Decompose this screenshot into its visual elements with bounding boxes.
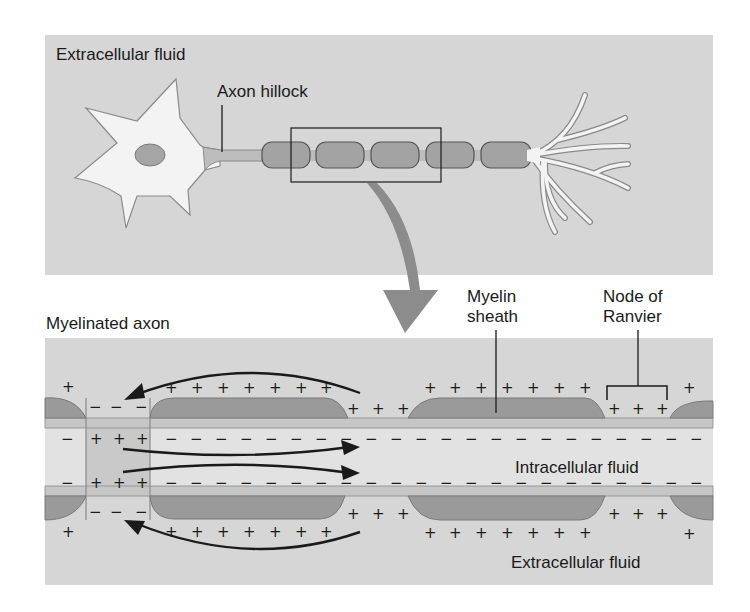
plus-charge: + xyxy=(608,507,621,522)
myelin-bottom xyxy=(408,496,605,520)
minus-charge: − xyxy=(315,432,328,447)
minus-charge: − xyxy=(515,476,528,491)
plus-charge: + xyxy=(295,525,308,540)
minus-charge: − xyxy=(365,476,378,491)
minus-charge: − xyxy=(540,432,553,447)
minus-charge: − xyxy=(440,476,453,491)
plus-charge: + xyxy=(656,507,669,522)
minus-charge: − xyxy=(135,400,148,415)
minus-charge: − xyxy=(315,476,328,491)
plus-charge: + xyxy=(347,402,360,417)
plus-charge: + xyxy=(165,525,178,540)
minus-charge: − xyxy=(415,432,428,447)
minus-charge: − xyxy=(565,432,578,447)
node-of-ranvier-label-2: Ranvier xyxy=(603,307,662,326)
minus-charge: − xyxy=(365,432,378,447)
plus-charge: + xyxy=(553,526,566,541)
plus-charge: + xyxy=(320,381,333,396)
plus-charge: + xyxy=(501,526,514,541)
minus-charge: − xyxy=(590,476,603,491)
plus-charge: + xyxy=(165,381,178,396)
minus-charge: − xyxy=(590,432,603,447)
plus-charge: + xyxy=(656,402,669,417)
nucleus xyxy=(135,144,165,166)
myelin-segment xyxy=(481,142,531,168)
minus-charge: − xyxy=(615,432,628,447)
plus-charge: + xyxy=(683,527,696,542)
extracellular-fluid-label-top: Extracellular fluid xyxy=(56,45,185,64)
plus-charge: + xyxy=(136,432,149,447)
plus-charge: + xyxy=(527,526,540,541)
myelin-top xyxy=(150,398,348,418)
plus-charge: + xyxy=(90,432,103,447)
plus-charge: + xyxy=(579,381,592,396)
minus-charge: − xyxy=(89,505,102,520)
extracellular-fluid-label-bottom: Extracellular fluid xyxy=(511,553,640,572)
minus-charge: − xyxy=(340,432,353,447)
minus-charge: − xyxy=(165,476,178,491)
plus-charge: + xyxy=(320,525,333,540)
minus-charge: − xyxy=(415,476,428,491)
axon-hillock-label: Axon hillock xyxy=(217,82,308,101)
minus-charge: − xyxy=(390,476,403,491)
myelin-segment xyxy=(426,142,474,168)
plus-charge: + xyxy=(449,381,462,396)
minus-charge: − xyxy=(690,432,703,447)
myelin-segment xyxy=(262,142,310,168)
minus-charge: − xyxy=(640,432,653,447)
minus-charge: − xyxy=(89,400,102,415)
minus-charge: − xyxy=(215,476,228,491)
minus-charge: − xyxy=(165,432,178,447)
minus-charge: − xyxy=(110,400,123,415)
minus-charge: − xyxy=(615,476,628,491)
myelin-segment xyxy=(316,142,364,168)
plus-charge: + xyxy=(608,402,621,417)
minus-charge: − xyxy=(61,432,74,447)
plus-charge: + xyxy=(397,402,410,417)
minus-charge: − xyxy=(240,432,253,447)
plus-charge: + xyxy=(683,381,696,396)
zoom-arrow xyxy=(367,183,438,333)
plus-charge: + xyxy=(269,381,282,396)
plus-charge: + xyxy=(243,525,256,540)
minus-charge: − xyxy=(490,432,503,447)
plus-charge: + xyxy=(397,507,410,522)
plus-charge: + xyxy=(136,476,149,491)
myelin-sheath-label-2: sheath xyxy=(467,307,518,326)
myelin-sheath-label-1: Myelin xyxy=(467,287,516,306)
plus-charge: + xyxy=(62,525,75,540)
minus-charge: − xyxy=(240,476,253,491)
myelin-top xyxy=(408,398,605,418)
minus-charge: − xyxy=(290,476,303,491)
plus-charge: + xyxy=(424,381,437,396)
plus-charge: + xyxy=(347,507,360,522)
minus-charge: − xyxy=(465,432,478,447)
plus-charge: + xyxy=(113,476,126,491)
minus-charge: − xyxy=(390,432,403,447)
node-of-ranvier-label-1: Node of xyxy=(603,287,663,306)
minus-charge: − xyxy=(440,432,453,447)
minus-charge: − xyxy=(540,476,553,491)
plus-charge: + xyxy=(424,526,437,541)
minus-charge: − xyxy=(665,476,678,491)
minus-charge: − xyxy=(690,476,703,491)
plus-charge: + xyxy=(62,380,75,395)
plus-charge: + xyxy=(90,476,103,491)
plus-charge: + xyxy=(501,381,514,396)
minus-charge: − xyxy=(265,476,278,491)
plus-charge: + xyxy=(553,381,566,396)
plus-charge: + xyxy=(372,507,385,522)
minus-charge: − xyxy=(110,505,123,520)
minus-charge: − xyxy=(190,476,203,491)
plus-charge: + xyxy=(113,432,126,447)
myelin-bottom xyxy=(150,496,345,519)
myelinated-axon-title: Myelinated axon xyxy=(46,314,170,333)
myelin-segment xyxy=(371,142,419,168)
minus-charge: − xyxy=(490,476,503,491)
plus-charge: + xyxy=(632,402,645,417)
minus-charge: − xyxy=(265,432,278,447)
minus-charge: − xyxy=(190,432,203,447)
minus-charge: − xyxy=(290,432,303,447)
minus-charge: − xyxy=(215,432,228,447)
plus-charge: + xyxy=(372,402,385,417)
